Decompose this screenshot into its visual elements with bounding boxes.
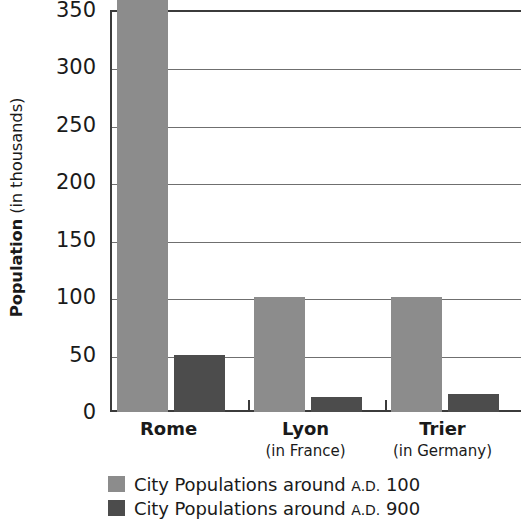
bar-trier-series0 — [391, 297, 442, 412]
plot-inner — [112, 12, 521, 412]
y-axis-tick-label: 50 — [69, 344, 96, 365]
category-name: Trier — [393, 418, 492, 441]
legend-item-series0: City Populations around A.D. 100 — [108, 472, 521, 496]
x-axis-category-labels: RomeLyon(in France)Trier(in Germany) — [110, 414, 521, 466]
y-axis-title-bold: Population — [8, 219, 27, 317]
gridline — [112, 184, 521, 185]
category-sublabel: (in France) — [265, 442, 345, 460]
legend-label-year: 900 — [380, 498, 420, 519]
y-axis-tick-labels: 050100150200250300350 — [34, 0, 102, 415]
legend-label-era: A.D. — [351, 502, 380, 518]
gridline — [112, 299, 521, 300]
x-axis-category-trier: Trier(in Germany) — [393, 418, 492, 460]
y-axis-title-regular: (in thousands) — [8, 98, 27, 219]
y-axis-tick-label: 150 — [56, 229, 96, 250]
plot-area — [110, 10, 521, 412]
legend-label-main: City Populations around — [134, 474, 351, 495]
bar-lyon-series0 — [254, 297, 305, 412]
legend-label-era: A.D. — [351, 478, 380, 494]
legend-label: City Populations around A.D. 900 — [134, 498, 420, 519]
bar-chart-figure: Population (in thousands) 05010015020025… — [0, 0, 521, 521]
y-axis-tick-label: 200 — [56, 172, 96, 193]
legend-label-main: City Populations around — [134, 498, 351, 519]
y-axis-tick-label: 0 — [83, 402, 96, 423]
y-axis-tick-label: 350 — [56, 0, 96, 21]
category-name: Rome — [140, 418, 197, 441]
bar-rome-series0 — [117, 0, 168, 412]
legend-label-year: 100 — [380, 474, 420, 495]
legend-swatch — [108, 476, 125, 492]
category-sublabel: (in Germany) — [393, 442, 492, 460]
gridline — [112, 242, 521, 243]
legend-swatch — [108, 500, 125, 516]
y-axis-title: Population (in thousands) — [0, 0, 34, 415]
y-axis-tick-label: 250 — [56, 114, 96, 135]
x-axis-group-separator — [385, 400, 387, 412]
bar-lyon-series1 — [311, 397, 362, 412]
x-axis-category-lyon: Lyon(in France) — [265, 418, 345, 460]
bar-rome-series1 — [174, 355, 225, 412]
gridline — [112, 127, 521, 128]
x-axis-category-rome: Rome — [140, 418, 197, 441]
gridline — [112, 69, 521, 70]
x-axis-group-separator — [248, 400, 250, 412]
legend-label: City Populations around A.D. 100 — [134, 474, 420, 495]
category-name: Lyon — [265, 418, 345, 441]
y-axis-tick-label: 300 — [56, 57, 96, 78]
bar-trier-series1 — [448, 394, 499, 412]
y-axis-tick-label: 100 — [56, 287, 96, 308]
legend: City Populations around A.D. 100City Pop… — [108, 472, 521, 520]
legend-item-series1: City Populations around A.D. 900 — [108, 496, 521, 520]
